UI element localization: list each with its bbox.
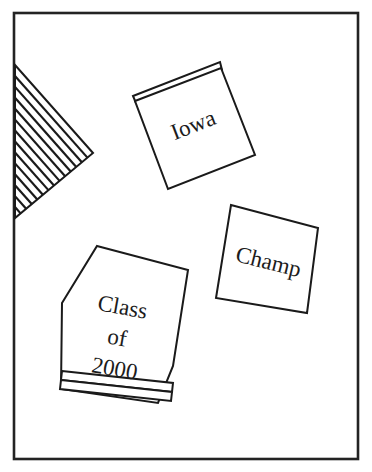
figure-canvas: Iowa Champ Class of 2000 — [0, 0, 372, 472]
hatched-corner-triangle — [15, 65, 93, 218]
iowa-patch[interactable]: Iowa — [133, 62, 255, 189]
class-of-2000-patch[interactable]: Class of 2000 — [60, 246, 188, 403]
champ-patch[interactable]: Champ — [216, 205, 318, 313]
class-patch-label-line-2: of — [106, 324, 130, 352]
line-drawing-svg: Iowa Champ Class of 2000 — [0, 0, 372, 472]
